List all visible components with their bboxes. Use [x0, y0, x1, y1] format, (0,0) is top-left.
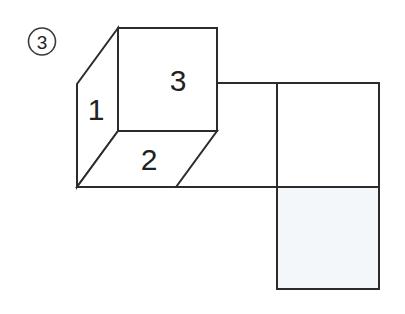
- cube: 3 1 2: [77, 28, 217, 187]
- cube-front-face: [118, 28, 217, 131]
- figure-canvas: 3 3 1 2: [0, 0, 405, 314]
- cube-left-face-label: 1: [88, 93, 105, 126]
- problem-number-badge: 3: [29, 28, 56, 55]
- problem-number-text: 3: [37, 32, 48, 53]
- diagram-svg: 3 3 1 2: [0, 0, 405, 314]
- cube-bottom-face-label: 2: [141, 143, 158, 176]
- cube-front-face-label: 3: [170, 64, 187, 97]
- shaded-target-square: [277, 187, 379, 289]
